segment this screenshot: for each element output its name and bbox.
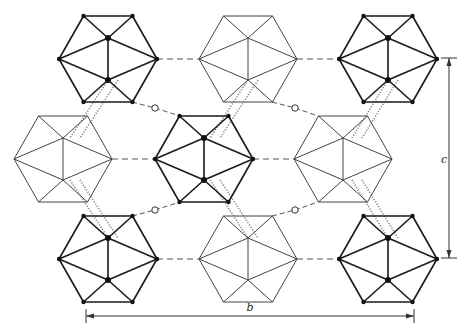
atom-icon xyxy=(410,100,414,104)
atom-icon xyxy=(153,157,157,161)
icosahedra-layer xyxy=(14,14,439,304)
dimension-lines: c b xyxy=(86,58,457,323)
oxygen-bridge xyxy=(132,202,180,216)
atom-icon xyxy=(177,114,181,118)
atom-icon xyxy=(435,57,439,61)
atom-icon xyxy=(155,57,159,61)
atom-icon xyxy=(81,100,85,104)
atom-icon xyxy=(385,277,391,283)
atom-icon xyxy=(105,277,111,283)
dotted-bond xyxy=(352,180,388,238)
icosahedron-r3c2 xyxy=(199,216,297,302)
oxygen-atom-icon xyxy=(152,105,158,111)
atom-icon xyxy=(337,57,341,61)
icosahedron-r2c2 xyxy=(153,114,255,204)
atom-icon xyxy=(435,257,439,261)
atom-icon xyxy=(105,77,111,83)
b-axis-label: b xyxy=(246,301,253,314)
atom-icon xyxy=(130,300,134,304)
atom-icon xyxy=(385,235,391,241)
atom-icon xyxy=(81,300,85,304)
dotted-bond xyxy=(352,80,388,138)
dashed-bond-layer xyxy=(112,59,339,259)
atom-icon xyxy=(130,14,134,18)
c-axis-label: c xyxy=(441,153,447,166)
atom-icon xyxy=(361,300,365,304)
dimension-c: c xyxy=(441,58,457,258)
atom-icon xyxy=(385,35,391,41)
atom-icon xyxy=(226,200,230,204)
atom-icon xyxy=(81,14,85,18)
atom-icon xyxy=(385,77,391,83)
atom-icon xyxy=(361,14,365,18)
atom-icon xyxy=(361,214,365,218)
atom-icon xyxy=(105,35,111,41)
atom-icon xyxy=(361,100,365,104)
oxygen-bridge xyxy=(272,202,318,216)
icosahedron-r1c2 xyxy=(199,16,297,102)
dotted-bond xyxy=(362,80,398,138)
atom-icon xyxy=(201,135,207,141)
oxygen-atom-icon xyxy=(292,207,298,213)
atom-icon xyxy=(130,100,134,104)
dotted-bond-layer xyxy=(70,80,398,238)
atom-icon xyxy=(201,177,207,183)
icosahedron-r1c1 xyxy=(57,14,159,104)
atom-icon xyxy=(155,257,159,261)
dotted-bond xyxy=(362,180,398,238)
icosahedron-r1c3 xyxy=(337,14,439,104)
atom-icon xyxy=(337,257,341,261)
atom-icon xyxy=(57,257,61,261)
icosahedron-r2c1 xyxy=(14,116,112,202)
atom-icon xyxy=(177,200,181,204)
atom-icon xyxy=(410,14,414,18)
oxygen-atom-icon xyxy=(292,105,298,111)
oxygen-bridge xyxy=(132,102,180,116)
icosahedron-r2c3 xyxy=(294,116,392,202)
icosahedron-r3c1 xyxy=(57,214,159,304)
atom-icon xyxy=(105,235,111,241)
dimension-b: b xyxy=(86,301,414,323)
atom-icon xyxy=(251,157,255,161)
atom-icon xyxy=(81,214,85,218)
atom-icon xyxy=(410,214,414,218)
atom-icon xyxy=(226,114,230,118)
oxygen-atom-icon xyxy=(152,207,158,213)
atom-icon xyxy=(57,57,61,61)
atom-icon xyxy=(410,300,414,304)
oxygen-bridge xyxy=(272,102,318,116)
atom-icon xyxy=(130,214,134,218)
icosahedron-r3c3 xyxy=(337,214,439,304)
icosahedra-packing-diagram: c b xyxy=(0,0,469,329)
